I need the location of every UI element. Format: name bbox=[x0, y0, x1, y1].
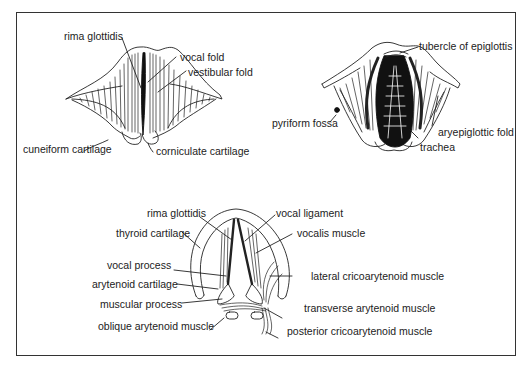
label-lateral-cricoarytenoid-muscle: lateral cricoarytenoid muscle bbox=[311, 270, 444, 282]
label-posterior-cricoarytenoid-muscle: posterior cricoarytenoid muscle bbox=[287, 325, 432, 337]
label-vestibular-fold: vestibular fold bbox=[188, 66, 253, 78]
label-aryepiglottic-fold: aryepiglottic fold bbox=[438, 126, 514, 138]
label-rima-glottidis-2: rima glottidis bbox=[147, 207, 206, 219]
label-muscular-process: muscular process bbox=[100, 298, 182, 310]
label-thyroid-cartilage: thyroid cartilage bbox=[116, 227, 190, 239]
label-pyriform-fossa: pyriform fossa bbox=[272, 117, 338, 129]
label-trachea: trachea bbox=[420, 141, 455, 153]
panel-intrinsic-muscles-view bbox=[174, 209, 292, 338]
label-cuneiform-cartilage: cuneiform cartilage bbox=[23, 143, 112, 155]
label-vocal-ligament: vocal ligament bbox=[276, 207, 343, 219]
label-vocalis-muscle: vocalis muscle bbox=[297, 227, 365, 239]
label-tubercle-of-epiglottis: tubercle of epiglottis bbox=[419, 40, 512, 52]
label-vocal-fold: vocal fold bbox=[180, 51, 224, 63]
label-oblique-arytenoid-muscle: oblique arytenoid muscle bbox=[98, 320, 214, 332]
label-corniculate-cartilage: corniculate cartilage bbox=[156, 145, 249, 157]
label-arytenoid-cartilage: arytenoid cartilage bbox=[92, 278, 178, 290]
label-transverse-arytenoid-muscle: transverse arytenoid muscle bbox=[304, 302, 435, 314]
label-vocal-process: vocal process bbox=[107, 259, 171, 271]
label-rima-glottidis-1: rima glottidis bbox=[64, 30, 123, 42]
larynx-illustration bbox=[0, 0, 531, 368]
